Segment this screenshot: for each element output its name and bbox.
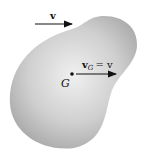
velocity-G-equals: = v xyxy=(95,59,113,70)
center-of-mass-label: G xyxy=(61,77,70,90)
velocity-label-top: v xyxy=(49,10,57,21)
velocity-G-subscript: G xyxy=(88,64,94,72)
translation-diagram: v G vG= v xyxy=(0,0,145,154)
center-of-mass-dot xyxy=(70,72,74,76)
rigid-body-shape xyxy=(10,16,137,149)
